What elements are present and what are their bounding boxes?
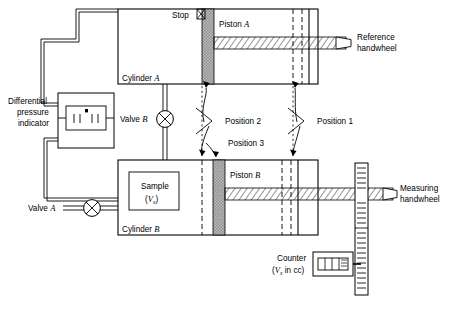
cylinder-a-letter: A bbox=[153, 73, 160, 83]
diagram-canvas: Differential pressure indicator Valve A … bbox=[0, 0, 451, 310]
valve-a-letter: A bbox=[49, 203, 56, 213]
apparatus-schematic: Differential pressure indicator Valve A … bbox=[0, 0, 451, 310]
text-labels: Differential pressure indicator Valve A … bbox=[8, 11, 440, 276]
label-stop: Stop bbox=[172, 11, 189, 20]
label-valve-b: Valve B bbox=[120, 114, 148, 124]
leader-position-1-upper bbox=[295, 88, 297, 122]
dpi-scale-ticks bbox=[74, 114, 98, 123]
pipe-dpi-to-cylinderB-inner bbox=[47, 141, 118, 201]
piston-b-letter: B bbox=[255, 170, 261, 180]
measuring-handwheel-scale[interactable] bbox=[355, 163, 368, 295]
pipe-cylinderA-to-dpi-inner bbox=[44, 12, 118, 106]
label-dpi-line3: indicator bbox=[18, 119, 49, 128]
label-counter: Counter bbox=[277, 254, 306, 263]
valve-b-letter: B bbox=[142, 114, 148, 124]
pipe-cylinderA-to-dpi-outer bbox=[41, 9, 118, 103]
piston-a-letter: A bbox=[243, 19, 250, 29]
label-measuring-handwheel-line1: Measuring bbox=[400, 184, 439, 193]
label-dpi-line2: pressure bbox=[17, 108, 49, 117]
reference-handwheel-wedge bbox=[336, 37, 351, 49]
label-piston-a: Piston A bbox=[219, 19, 250, 29]
label-reference-handwheel-line2: handwheel bbox=[357, 44, 397, 53]
label-counter-units: (Vx in cc) bbox=[272, 265, 305, 276]
leader-position-3 bbox=[206, 143, 216, 157]
label-reference-handwheel-line1: Reference bbox=[357, 33, 395, 42]
valve-a-symbol[interactable] bbox=[84, 200, 101, 217]
label-valve-a: Valve A bbox=[28, 203, 56, 213]
pipe-dpi-to-cylinderB-outer bbox=[44, 138, 118, 198]
label-sample: Sample bbox=[141, 182, 169, 191]
piping-network bbox=[41, 9, 118, 201]
label-position-1: Position 1 bbox=[317, 117, 353, 126]
label-measuring-handwheel-line2: handwheel bbox=[400, 195, 440, 204]
cylinder-b-letter: B bbox=[154, 224, 160, 234]
valve-b-symbol[interactable] bbox=[157, 111, 174, 128]
label-position-3: Position 3 bbox=[228, 139, 264, 148]
dpi-needle bbox=[85, 109, 88, 112]
label-sample-volume: (Vx) bbox=[145, 194, 158, 205]
label-piston-b: Piston B bbox=[230, 170, 261, 180]
leader-position-2-upper bbox=[203, 88, 206, 122]
label-position-2: Position 2 bbox=[225, 117, 261, 126]
counter-readout bbox=[313, 252, 361, 276]
label-dpi-line1: Differential bbox=[8, 97, 47, 106]
differential-pressure-indicator bbox=[58, 93, 114, 148]
piston-b-slab bbox=[213, 160, 225, 235]
piston-a-rod bbox=[214, 37, 346, 49]
label-cylinder-b: Cylinder B bbox=[122, 224, 160, 234]
piston-a-slab bbox=[202, 9, 214, 84]
label-cylinder-a: Cylinder A bbox=[122, 73, 160, 83]
measuring-handwheel-wedge bbox=[383, 188, 397, 200]
